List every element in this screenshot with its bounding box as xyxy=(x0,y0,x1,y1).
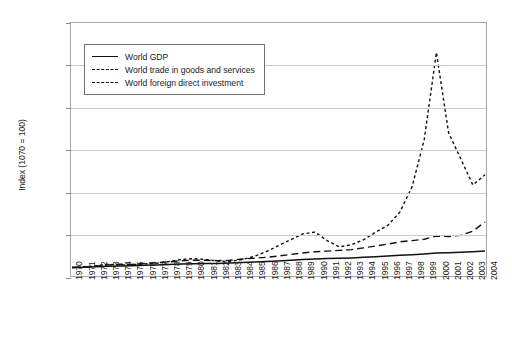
x-tick-label: 1983 xyxy=(233,261,243,280)
x-tick-label: 2000 xyxy=(441,261,451,280)
x-tick-label: 2001 xyxy=(453,261,463,280)
legend-label: World GDP xyxy=(125,52,168,62)
x-tick-label: 1982 xyxy=(221,261,231,280)
gridline xyxy=(71,150,486,151)
legend-label: World trade in goods and services xyxy=(125,65,255,75)
x-tick-label: 1981 xyxy=(209,261,219,280)
x-axis: 1970197119721973197419751976197719781979… xyxy=(70,280,487,340)
legend-item: World trade in goods and services xyxy=(92,63,255,76)
x-tick-label: 1999 xyxy=(428,261,438,280)
x-tick-label: 1990 xyxy=(319,261,329,280)
x-tick-label: 1987 xyxy=(282,261,292,280)
legend-item: World GDP xyxy=(92,50,255,63)
x-tick-label: 1992 xyxy=(343,261,353,280)
x-tick-label: 1995 xyxy=(380,261,390,280)
x-tick-label: 1977 xyxy=(160,261,170,280)
x-tick-label: 1973 xyxy=(111,261,121,280)
y-tick-mark xyxy=(66,150,71,151)
chart-figure: Growth of world GDP, trade and foreign d… xyxy=(0,0,512,342)
x-tick-label: 1976 xyxy=(148,261,158,280)
x-tick-label: 1974 xyxy=(123,261,133,280)
y-axis-title: Index (1070 = 100) xyxy=(17,95,27,215)
x-tick-label: 2002 xyxy=(465,261,475,280)
y-tick-mark xyxy=(66,193,71,194)
gridline xyxy=(71,108,486,109)
x-tick-label: 1993 xyxy=(355,261,365,280)
x-tick-label: 1984 xyxy=(245,261,255,280)
x-tick-label: 1980 xyxy=(196,261,206,280)
x-tick-label: 1998 xyxy=(416,261,426,280)
x-tick-label: 1975 xyxy=(135,261,145,280)
gridline xyxy=(71,193,486,194)
y-tick-mark xyxy=(66,65,71,66)
gridline xyxy=(71,235,486,236)
legend-label: World foreign direct investment xyxy=(125,78,243,88)
y-tick-mark xyxy=(66,108,71,109)
y-tick-mark xyxy=(66,23,71,24)
x-tick-label: 1971 xyxy=(87,261,97,280)
x-tick-label: 1994 xyxy=(367,261,377,280)
x-tick-label: 1979 xyxy=(184,261,194,280)
x-tick-label: 2004 xyxy=(489,261,499,280)
x-tick-label: 1970 xyxy=(74,261,84,280)
x-tick-label: 1991 xyxy=(331,261,341,280)
x-tick-label: 1997 xyxy=(404,261,414,280)
x-tick-label: 1978 xyxy=(172,261,182,280)
x-tick-label: 2003 xyxy=(477,261,487,280)
y-tick-mark xyxy=(66,235,71,236)
x-tick-label: 1985 xyxy=(257,261,267,280)
x-tick-label: 1972 xyxy=(99,261,109,280)
legend-line-icon xyxy=(92,79,118,86)
legend-line-icon xyxy=(92,53,118,60)
chart-legend: World GDPWorld trade in goods and servic… xyxy=(84,44,265,95)
y-tick-mark xyxy=(66,278,71,279)
legend-item: World foreign direct investment xyxy=(92,76,255,89)
x-tick-label: 1988 xyxy=(294,261,304,280)
x-tick-label: 1996 xyxy=(392,261,402,280)
x-tick-label: 1986 xyxy=(270,261,280,280)
legend-line-icon xyxy=(92,66,118,73)
x-tick-label: 1989 xyxy=(306,261,316,280)
